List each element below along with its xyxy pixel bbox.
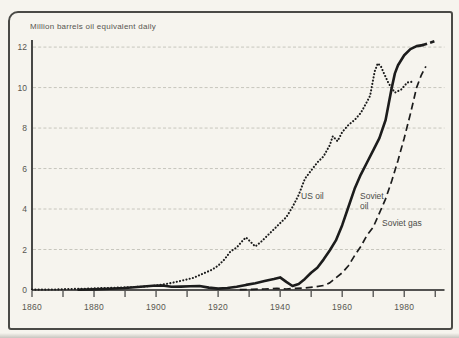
oil-gas-production-chart: 1860188019001920194019601980024681012 bbox=[0, 0, 459, 338]
y-tick-label: 4 bbox=[22, 204, 27, 214]
x-tick-label: 1920 bbox=[208, 302, 228, 312]
x-tick-label: 1880 bbox=[84, 302, 104, 312]
series-line-soviet-gas bbox=[240, 66, 426, 289]
x-tick-label: 1960 bbox=[332, 302, 352, 312]
y-tick-label: 8 bbox=[22, 123, 27, 133]
soviet-oil-label-line2: oil bbox=[360, 202, 384, 212]
x-tick-label: 1940 bbox=[270, 302, 290, 312]
series-line-soviet-oil bbox=[79, 45, 423, 290]
y-tick-label: 10 bbox=[18, 83, 28, 93]
soviet-gas-label: Soviet gas bbox=[382, 219, 422, 229]
y-tick-label: 12 bbox=[18, 42, 28, 52]
y-tick-label: 2 bbox=[22, 245, 27, 255]
x-tick-label: 1860 bbox=[22, 302, 42, 312]
series-line-us-oil bbox=[32, 63, 414, 289]
y-tick-label: 0 bbox=[22, 285, 27, 295]
chart-title: Million barrels oil equivalent daily bbox=[30, 22, 156, 31]
soviet-oil-label: Soviet oil bbox=[360, 192, 384, 211]
x-tick-label: 1980 bbox=[394, 302, 414, 312]
us-oil-label: US oil bbox=[301, 192, 324, 202]
page-bottom-shadow bbox=[0, 333, 459, 338]
series-line-soviet-oil-projection bbox=[423, 41, 435, 45]
y-tick-label: 6 bbox=[22, 164, 27, 174]
x-tick-label: 1900 bbox=[146, 302, 166, 312]
